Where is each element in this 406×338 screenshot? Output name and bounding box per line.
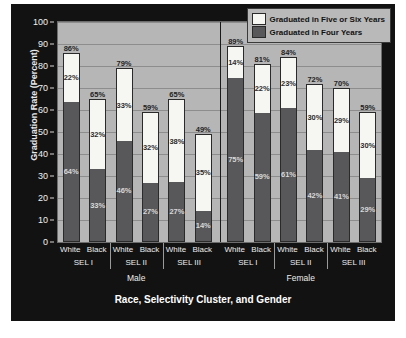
bar-segment-four: 14% bbox=[196, 211, 211, 241]
bar-total-label: 59% bbox=[360, 103, 375, 112]
bar-total-label: 89% bbox=[228, 37, 243, 46]
x-tick-race-label: White bbox=[224, 245, 244, 254]
x-axis-title: Race, Selectivity Cluster, and Gender bbox=[11, 294, 395, 305]
y-tick-mark bbox=[50, 44, 54, 45]
bar-segment-label: 22% bbox=[64, 73, 79, 82]
y-tick-label: 100 bbox=[33, 17, 48, 27]
y-tick-mark bbox=[50, 154, 54, 155]
bar-segment-five-or-six: 30%59% bbox=[360, 113, 375, 178]
bar-total-label: 72% bbox=[307, 75, 322, 84]
x-tick-race-label: White bbox=[60, 245, 80, 254]
bar: 35%49%14% bbox=[195, 134, 212, 242]
x-axis-separator bbox=[163, 243, 164, 269]
x-tick-race-label: Black bbox=[357, 245, 377, 254]
bar-segment-five-or-six: 32%65% bbox=[90, 100, 105, 169]
y-tick-label: 30 bbox=[38, 171, 48, 181]
x-tick-cluster-label: SEL I bbox=[238, 258, 257, 267]
x-axis-separator bbox=[110, 243, 111, 269]
bar: 14%89%75% bbox=[227, 46, 244, 242]
bar-segment-four: 41% bbox=[334, 152, 349, 241]
chart-panel: Graduation Rate (Percent) 01020304050607… bbox=[11, 4, 395, 321]
bar: 29%70%41% bbox=[333, 88, 350, 242]
x-tick-cluster-label: SEL III bbox=[177, 258, 201, 267]
legend: Graduated in Five or Six Years Graduated… bbox=[247, 8, 391, 43]
x-axis: WhiteBlackWhiteBlackWhiteBlackWhiteBlack… bbox=[57, 243, 382, 293]
bar-total-label: 86% bbox=[64, 44, 79, 53]
bar-segment-label: 42% bbox=[307, 191, 322, 200]
x-tick-race-label: Black bbox=[193, 245, 213, 254]
bar-segment-label: 22% bbox=[255, 84, 270, 93]
bar-segment-label: 14% bbox=[228, 58, 243, 67]
x-tick-cluster-label: SEL II bbox=[126, 258, 148, 267]
y-tick-mark bbox=[50, 220, 54, 221]
legend-item-four: Graduated in Four Years bbox=[252, 26, 385, 38]
bar-total-label: 65% bbox=[90, 90, 105, 99]
bar-segment-label: 59% bbox=[255, 172, 270, 181]
bar: 30%72%42% bbox=[306, 84, 323, 242]
y-tick-label: 50 bbox=[38, 127, 48, 137]
bar-total-label: 65% bbox=[169, 90, 184, 99]
y-tick-mark bbox=[50, 22, 54, 23]
bar-segment-four: 75% bbox=[228, 78, 243, 241]
x-tick-cluster-label: SEL II bbox=[290, 258, 312, 267]
bar-segment-five-or-six: 22%86% bbox=[64, 54, 79, 102]
bar-segment-four: 27% bbox=[143, 183, 158, 241]
legend-label-five-or-six: Graduated in Five or Six Years bbox=[270, 15, 385, 24]
bar-segment-five-or-six: 23%84% bbox=[281, 58, 296, 108]
y-tick-label: 80 bbox=[38, 61, 48, 71]
bar-total-label: 59% bbox=[143, 103, 158, 112]
y-tick-label: 20 bbox=[38, 193, 48, 203]
bar: 22%81%59% bbox=[254, 64, 271, 242]
x-tick-race-label: Black bbox=[140, 245, 160, 254]
bar-segment-four: 33% bbox=[90, 169, 105, 241]
bar-segment-five-or-six: 33%79% bbox=[117, 69, 132, 141]
bar-segment-label: 29% bbox=[334, 116, 349, 125]
bar-segment-five-or-six: 35%49% bbox=[196, 135, 211, 211]
bar: 38%65%27% bbox=[168, 99, 185, 242]
x-tick-cluster-label: SEL III bbox=[342, 258, 366, 267]
x-axis-separator bbox=[274, 243, 275, 269]
y-tick-mark bbox=[50, 242, 54, 243]
bar: 33%79%46% bbox=[116, 68, 133, 242]
bar-segment-four: 59% bbox=[255, 113, 270, 241]
bar-segment-four: 46% bbox=[117, 141, 132, 241]
bar-total-label: 84% bbox=[281, 48, 296, 57]
x-tick-race-label: White bbox=[166, 245, 186, 254]
x-tick-race-label: Black bbox=[304, 245, 324, 254]
bar-segment-four: 29% bbox=[360, 178, 375, 241]
legend-label-four: Graduated in Four Years bbox=[270, 28, 363, 37]
bar-segment-label: 29% bbox=[360, 205, 375, 214]
bar-segment-label: 41% bbox=[334, 192, 349, 201]
plot-area: 22%86%64%32%65%33%33%79%46%32%59%27%38%6… bbox=[57, 21, 382, 243]
legend-item-five-or-six: Graduated in Five or Six Years bbox=[252, 13, 385, 25]
bar-total-label: 79% bbox=[117, 59, 132, 68]
y-tick-label: 60 bbox=[38, 105, 48, 115]
x-axis-separator bbox=[327, 243, 328, 269]
y-tick-label: 40 bbox=[38, 149, 48, 159]
y-tick-label: 70 bbox=[38, 83, 48, 93]
y-tick-label: 90 bbox=[38, 39, 48, 49]
bar-segment-five-or-six: 29%70% bbox=[334, 89, 349, 152]
x-tick-race-label: Black bbox=[87, 245, 107, 254]
bar-segment-label: 32% bbox=[90, 130, 105, 139]
y-tick-mark bbox=[50, 88, 54, 89]
y-axis-ticks: 0102030405060708090100 bbox=[28, 21, 54, 243]
x-tick-cluster-label: SEL I bbox=[74, 258, 93, 267]
bar: 32%59%27% bbox=[142, 112, 159, 242]
y-tick-label: 10 bbox=[38, 215, 48, 225]
bar-segment-five-or-six: 38%65% bbox=[169, 100, 184, 182]
y-tick-mark bbox=[50, 198, 54, 199]
legend-swatch-four-icon bbox=[252, 26, 266, 38]
bar-segment-label: 27% bbox=[143, 207, 158, 216]
bar: 32%65%33% bbox=[89, 99, 106, 242]
x-tick-race-label: White bbox=[277, 245, 297, 254]
bar-segment-label: 75% bbox=[228, 155, 243, 164]
bar-segment-five-or-six: 14%89% bbox=[228, 47, 243, 77]
y-tick-label: 0 bbox=[43, 237, 48, 247]
bar-total-label: 49% bbox=[196, 125, 211, 134]
y-tick-mark bbox=[50, 66, 54, 67]
bar-segment-label: 30% bbox=[360, 141, 375, 150]
gender-panel-divider bbox=[220, 22, 221, 242]
bar: 22%86%64% bbox=[63, 53, 80, 242]
bar-segment-label: 33% bbox=[117, 101, 132, 110]
